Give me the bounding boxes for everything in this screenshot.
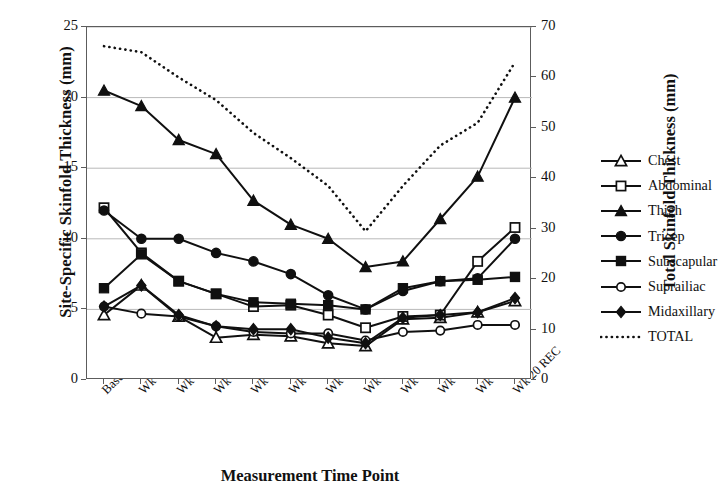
y-axis-left-tick-label: 20 [44,88,78,105]
series-subscapular [99,250,519,314]
series-thigh [98,85,520,272]
legend-item-suprailiac[interactable]: Suprailiac [600,274,727,299]
series-suprailiac [100,302,519,344]
legend-symbol [600,304,642,320]
legend-item-thigh[interactable]: Thigh [600,198,727,223]
data-point [510,272,519,281]
legend-symbol [600,178,642,194]
data-point [137,234,146,243]
legend-item-midaxillary[interactable]: Midaxillary [600,299,727,324]
y-axis-left-tick-mark [81,379,86,380]
data-point [473,257,482,266]
data-point [617,282,625,290]
data-point [616,257,625,266]
legend-label: Subscapular [648,253,717,270]
y-axis-right-tick-label: 10 [541,320,575,337]
y-axis-left-tick-label: 0 [44,370,78,387]
legend-label: Chest [648,152,680,169]
series-line [104,307,515,341]
data-point [211,321,220,332]
data-point [136,100,147,110]
data-point [99,284,108,293]
legend-item-tricep[interactable]: Tricep [600,224,727,249]
data-point [286,270,295,279]
legend-label: Tricep [648,228,685,245]
x-axis-title: Measurement Time Point [80,466,540,486]
series-line [104,91,515,268]
legend-symbol [600,153,642,169]
series-tricep [99,206,519,314]
data-point [137,250,146,259]
data-point [285,219,296,229]
data-point [249,257,258,266]
data-point [211,289,220,298]
y-axis-right-tick-label: 40 [541,168,575,185]
legend-label: Abdominal [648,177,712,194]
data-point [137,309,145,317]
plot-area [86,26,531,379]
y-axis-right-tick-label: 30 [541,219,575,236]
data-point [324,301,333,310]
y-axis-right-tick-label: 0 [541,370,575,387]
legend: ChestAbdominalThighTricepSubscapularSupr… [600,148,727,350]
data-point [473,275,482,284]
data-point [174,234,183,243]
y-axis-right-tick-label: 70 [541,17,575,34]
series-line [104,254,515,309]
legend-label: Suprailiac [648,278,706,295]
legend-label: Midaxillary [648,303,715,320]
y-axis-left-tick-label: 5 [44,299,78,316]
data-point [324,291,333,300]
y-axis-left-tick-label: 10 [44,229,78,246]
data-point [399,328,407,336]
legend-label: Thigh [648,202,682,219]
y-axis-left-tick-label: 25 [44,17,78,34]
legend-item-chest[interactable]: Chest [600,148,727,173]
data-point [473,321,481,329]
data-point [249,298,258,307]
y-axis-right-tick-label: 20 [541,269,575,286]
legend-symbol [600,279,642,295]
data-point [211,248,220,257]
legend-item-abdominal[interactable]: Abdominal [600,173,727,198]
data-point [98,85,109,95]
data-point [616,306,625,317]
data-point [174,277,183,286]
data-point [398,284,407,293]
series-line [104,285,515,343]
y-axis-left-tick-label: 15 [44,158,78,175]
data-point [324,310,333,319]
plot-svg [87,27,532,380]
legend-symbol [600,203,642,219]
data-point [361,323,370,332]
data-point [511,321,519,329]
legend-symbol [600,329,642,345]
data-point [616,232,625,241]
y-axis-right-tick-label: 60 [541,67,575,84]
data-point [361,305,370,314]
legend-symbol [600,253,642,269]
data-point [472,171,483,181]
data-point [436,326,444,334]
data-point [99,301,108,312]
data-point [436,277,445,286]
data-point [99,206,108,215]
legend-label: TOTAL [648,328,693,345]
data-point [510,234,519,243]
y-axis-right-tick-label: 50 [541,118,575,135]
data-point [510,223,519,232]
data-point [286,299,295,308]
chart-figure: Site-Specific Skinfold Thickness (mm) To… [0,0,727,504]
legend-item-subscapular[interactable]: Subscapular [600,249,727,274]
legend-symbol [600,228,642,244]
legend-item-total[interactable]: TOTAL [600,324,727,349]
data-point [616,181,625,190]
